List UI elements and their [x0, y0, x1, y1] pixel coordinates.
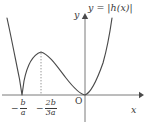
x-tick-label-minus-2b-over-3a: − 2b 3a — [36, 99, 57, 117]
math-figure-absolute-value-cubic: y = |h(x)| y x O − b a − 2b 3a — [0, 0, 145, 126]
fraction-denominator: 3a — [45, 108, 57, 118]
fraction-denominator: a — [20, 108, 27, 118]
y-axis-label: y — [74, 10, 79, 20]
curve-equation-label: y = |h(x)| — [88, 3, 133, 13]
y-axis-arrowhead — [82, 13, 88, 19]
curve-absolute-h-of-x — [7, 18, 112, 95]
origin-label: O — [75, 97, 82, 106]
minus-sign: − — [11, 104, 19, 113]
fraction-b-over-a: b a — [20, 99, 27, 117]
fraction-numerator: 2b — [45, 99, 57, 108]
x-axis-arrowhead — [139, 92, 144, 98]
fraction-2b-over-3a: 2b 3a — [45, 99, 57, 117]
fraction-numerator: b — [20, 99, 27, 108]
minus-sign: − — [36, 104, 44, 113]
x-axis-label: x — [131, 105, 136, 115]
x-tick-label-minus-b-over-a: − b a — [11, 99, 27, 117]
